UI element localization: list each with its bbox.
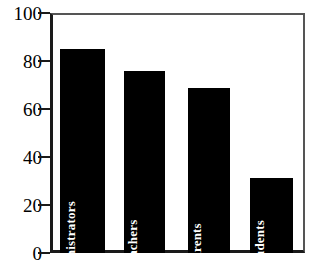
y-axis-tick-mark-80 [38,60,50,62]
y-axis-tick-mark-40 [38,156,50,158]
bar-label-students: Students [259,220,272,265]
y-axis-tick-label-40: 40 [0,148,42,167]
bar-label-parents: Parents [196,223,209,265]
y-axis-tick-label-20: 20 [0,196,42,215]
y-axis-tick-mark-20 [38,204,50,206]
y-axis-tick-mark-60 [38,108,50,110]
y-axis-tick-label-0: 0 [0,244,42,263]
bar-label-teachers: Teachers [132,220,145,265]
y-axis-tick-label-60: 60 [0,100,42,119]
y-axis-tick-label-100: 100 [0,4,42,23]
bar-parents: Parents [188,88,230,253]
bar-administrators: Administrators [60,49,105,253]
y-axis-tick-label-80: 80 [0,52,42,71]
y-axis-tick-mark-100 [38,12,50,14]
bar-label-administrators: Administrators [70,201,83,265]
bars-layer: Administrators Teachers Parents Students [50,13,305,253]
bar-students: Students [250,178,293,253]
bar-chart: 100 80 60 40 20 0 Administrators Teacher… [0,0,314,265]
bar-teachers: Teachers [124,71,165,253]
y-axis-tick-mark-0 [38,252,50,254]
